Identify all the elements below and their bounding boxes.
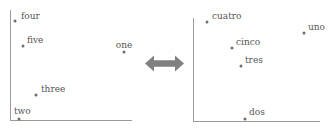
arrow-shape [145,56,184,72]
data-point-label-five: five [27,35,43,45]
data-point-uno [303,32,306,35]
data-point-cinco [231,47,234,50]
data-point-two [18,118,21,121]
data-point-one [123,51,126,54]
data-point-label-three: three [41,84,65,94]
data-point-three [35,94,38,97]
data-point-label-one: one [116,40,133,50]
y-axis-line-right [193,18,194,121]
data-point-dos [244,118,247,121]
data-point-cuatro [206,21,209,24]
x-axis-line-left [10,120,132,121]
data-point-label-cinco: cinco [236,37,260,47]
data-point-four [14,20,17,23]
two-panel-scatter-figure: fourfiveonethreetwo cuatrounocincotresdo… [0,0,332,131]
data-point-label-four: four [21,11,40,21]
data-point-label-uno: uno [308,22,325,32]
chart-panel-english-numbers: fourfiveonethreetwo [0,0,140,131]
data-point-label-dos: dos [249,107,265,117]
data-point-label-tres: tres [245,55,263,65]
chart-panel-spanish-numbers: cuatrounocincotresdos [185,0,332,131]
data-point-tres [240,65,243,68]
y-axis-line-left [10,10,11,120]
data-point-label-two: two [14,106,31,116]
data-point-five [22,45,25,48]
double-headed-arrow-icon [145,54,184,73]
data-point-label-cuatro: cuatro [212,11,242,21]
x-axis-line-right [193,121,320,122]
